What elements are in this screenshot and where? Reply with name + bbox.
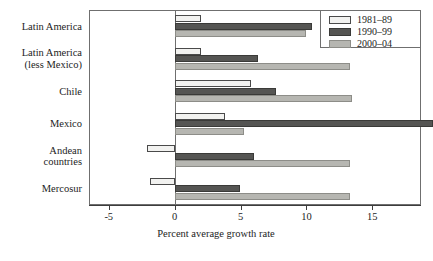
x-tick-5: [372, 205, 373, 210]
bar-2-cat-4: [175, 120, 433, 127]
category-label-5: Andean countries: [44, 145, 83, 168]
x-tick-4: [306, 205, 307, 210]
category-label-2: Latin America (less Mexico): [22, 47, 82, 70]
bar-2-cat-3: [175, 88, 276, 95]
bar-3-cat-2: [175, 63, 350, 70]
x-tick-label-1: -5: [89, 211, 129, 223]
x-tick-3: [241, 205, 242, 210]
bar-3-cat-5: [175, 160, 350, 167]
bar-2-cat-2: [175, 55, 258, 62]
zero-line: [175, 10, 176, 205]
category-label-6: Mercosur: [42, 183, 82, 195]
x-axis-line: [89, 205, 421, 206]
category-label-4: Mexico: [50, 118, 82, 130]
category-axis-labels: Latin AmericaLatin America (less Mexico)…: [0, 10, 86, 205]
legend-label-1981-89: 1981–89: [357, 15, 392, 25]
x-tick-1: [109, 205, 110, 210]
category-label-1: Latin America: [22, 21, 82, 33]
bar-3-cat-3: [175, 95, 353, 102]
bar-1-cat-2: [175, 48, 201, 55]
bar-1-cat-4: [175, 113, 225, 120]
legend-swatch-icon-1981-89: [329, 16, 351, 24]
bar-1-cat-1: [175, 15, 201, 22]
x-tick-label-4: 10: [286, 211, 326, 223]
legend-item-1990-99: 1990–99: [329, 26, 420, 37]
legend-label-2000-04: 2000–04: [357, 39, 392, 49]
legend-item-1981-89: 1981–89: [329, 14, 420, 25]
bar-2-cat-6: [175, 185, 241, 192]
category-label-3: Chile: [59, 86, 82, 98]
bar-3-cat-6: [175, 193, 350, 200]
x-tick-label-5: 15: [352, 211, 392, 223]
bar-2-cat-5: [175, 153, 254, 160]
bar-1-cat-6: [150, 178, 175, 185]
legend-item-2000-04: 2000–04: [329, 38, 420, 49]
bar-1-cat-3: [175, 80, 251, 87]
x-tick-label-2: 0: [155, 211, 195, 223]
legend-label-1990-99: 1990–99: [357, 27, 392, 37]
bar-3-cat-1: [175, 30, 307, 37]
x-tick-label-3: 5: [221, 211, 261, 223]
x-tick-2: [175, 205, 176, 210]
bar-2-cat-1: [175, 23, 312, 30]
legend: 1981–89 1990–99 2000–04: [320, 10, 421, 48]
x-axis-title: Percent average growth rate: [0, 228, 432, 239]
legend-swatch-icon-2000-04: [329, 40, 351, 48]
bar-3-cat-4: [175, 128, 245, 135]
legend-swatch-icon-1990-99: [329, 28, 351, 36]
bar-1-cat-5: [147, 145, 175, 152]
